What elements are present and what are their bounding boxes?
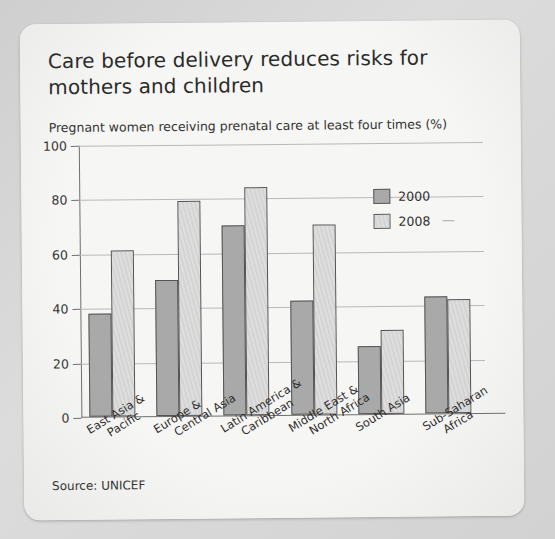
y-axis-tick [71, 200, 79, 201]
bar-2008[interactable] [312, 224, 337, 415]
page-title: Care before delivery reduces risks for m… [48, 44, 468, 100]
chart-legend: 2000 2008 [373, 188, 454, 239]
legend-item-2008: 2008 [373, 213, 454, 229]
y-axis-tick [72, 255, 80, 256]
bar-2008[interactable] [245, 187, 270, 416]
y-axis-tick-label: 80 [51, 193, 67, 208]
y-axis-tick [72, 309, 80, 310]
y-axis-tick [73, 418, 81, 419]
bar-series-container [80, 142, 486, 417]
bar-2000[interactable] [88, 313, 112, 417]
bar-2008[interactable] [177, 201, 202, 416]
y-axis-tick-label: 0 [61, 410, 69, 425]
legend-trailing-dash [442, 220, 454, 221]
source-note: Source: UNICEF [52, 478, 145, 493]
y-axis-tick [71, 146, 79, 147]
y-axis-tick-label: 20 [53, 356, 69, 371]
page-background: Care before delivery reduces risks for m… [0, 0, 555, 539]
legend-swatch-2008-icon [373, 214, 390, 229]
legend-swatch-2000-icon [373, 189, 390, 204]
legend-label-2000: 2000 [398, 188, 430, 203]
bar-2000[interactable] [425, 296, 449, 413]
chart-card: Care before delivery reduces risks for m… [20, 20, 525, 521]
y-axis-tick-label: 40 [52, 302, 68, 317]
y-axis-tick [73, 363, 81, 364]
bar-group [423, 142, 472, 413]
bar-group [356, 143, 405, 414]
bar-group [154, 145, 203, 416]
chart-subtitle: Pregnant women receiving prenatal care a… [49, 116, 499, 135]
y-axis-tick-label: 100 [43, 138, 67, 153]
legend-label-2008: 2008 [398, 213, 430, 228]
chart-card-inner: Care before delivery reduces risks for m… [20, 20, 525, 521]
legend-item-2000: 2000 [373, 188, 454, 204]
bar-2008[interactable] [110, 250, 135, 416]
bar-group [288, 143, 337, 414]
y-axis-tick-label: 60 [52, 247, 68, 262]
bar-2000[interactable] [155, 280, 179, 416]
bar-group [221, 144, 270, 415]
chart-plot-area: 020406080100 East Asia &PacificEurope &C… [79, 142, 486, 418]
bar-group [86, 145, 135, 416]
